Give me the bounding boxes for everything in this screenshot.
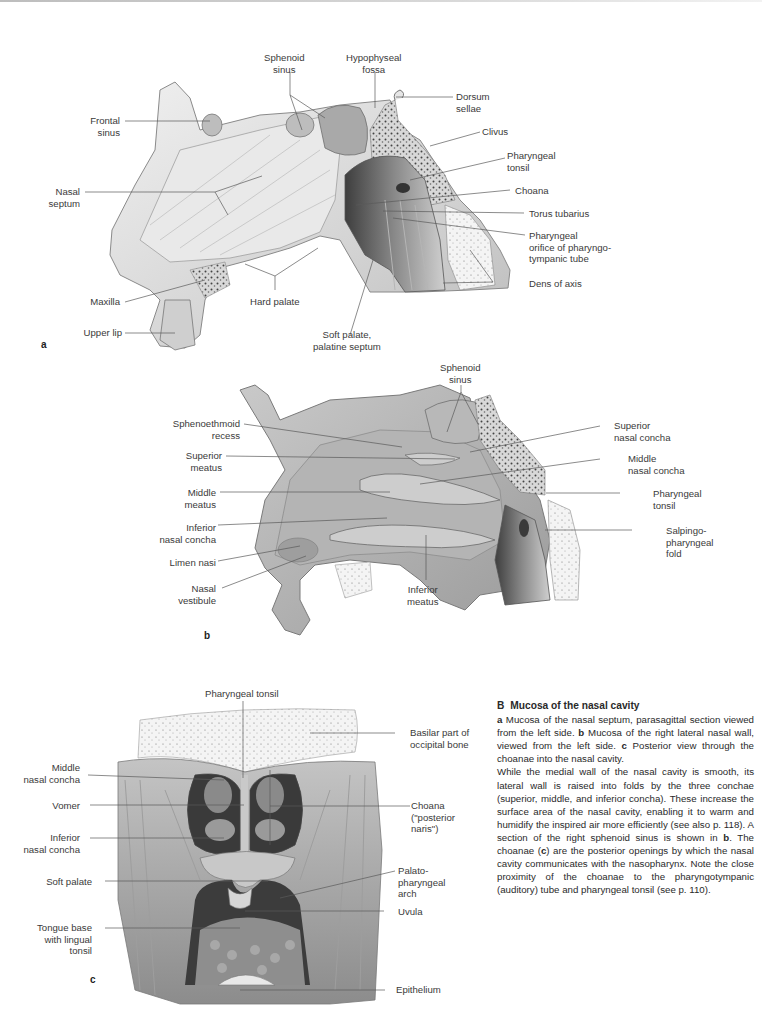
panel-c-illustration [118, 709, 382, 1004]
caption-title-text: Mucosa of the nasal cavity [510, 700, 639, 711]
label-salpingopharyngeal-fold: Salpingo- pharyngeal fold [666, 525, 713, 560]
label-choana-a: Choana [515, 185, 549, 197]
label-epithelium: Epithelium [396, 984, 441, 996]
label-uvula: Uvula [398, 906, 423, 918]
label-pharyngeal-orifice: Pharyngeal orifice of pharyngo- tympanic… [529, 230, 611, 265]
label-inferior-nasal-concha-b: Inferior nasal concha [150, 522, 216, 545]
caption-title: BMucosa of the nasal cavity [497, 699, 754, 712]
label-torus-tubarius: Torus tubarius [529, 208, 589, 220]
label-clivus: Clivus [482, 126, 508, 138]
caption-panel-descriptions: a Mucosa of the nasal septum, parasagitt… [497, 713, 754, 765]
caption-body-part-1: While the medial wall of the nasal cavit… [497, 766, 754, 842]
label-dorsum-sellae: Dorsum sellae [456, 91, 490, 114]
label-pharyngeal-tonsil-c: Pharyngeal tonsil [205, 688, 279, 700]
label-pharyngeal-tonsil-b: Pharyngeal tonsil [653, 488, 702, 511]
label-choana-c: Choana ("posterior naris") [411, 800, 455, 835]
label-frontal-sinus: Frontal sinus [86, 115, 120, 138]
label-maxilla: Maxilla [70, 296, 120, 308]
caption-figure-id: B [497, 700, 504, 711]
panel-letter-b: b [204, 630, 210, 641]
caption-body: While the medial wall of the nasal cavit… [497, 765, 754, 896]
label-basilar-part-occipital: Basilar part of occipital bone [410, 727, 469, 750]
label-sphenoid-sinus-b: Sphenoid sinus [440, 362, 481, 385]
label-upper-lip: Upper lip [70, 327, 122, 339]
label-palatopharyngeal-arch: Palato- pharyngeal arch [398, 865, 445, 900]
label-hard-palate: Hard palate [250, 296, 300, 308]
label-middle-nasal-concha: Middle nasal concha [628, 453, 685, 476]
label-sphenoid-sinus-a: Sphenoid sinus [264, 52, 305, 75]
label-soft-palate-c: Soft palate [30, 876, 92, 888]
label-middle-nasal-concha-c: Middle nasal concha [20, 762, 80, 785]
label-nasal-septum: Nasal septum [40, 186, 80, 209]
label-tongue-base: Tongue base with lingual tonsil [30, 922, 92, 957]
label-inferior-meatus: Inferior meatus [407, 584, 438, 607]
label-pharyngeal-tonsil-a: Pharyngeal tonsil [507, 150, 556, 173]
label-hypophyseal-fossa: Hypophyseal fossa [346, 52, 401, 75]
label-soft-palate-a: Soft palate, palatine septum [313, 329, 381, 352]
label-superior-meatus: Superior meatus [170, 450, 222, 473]
label-vomer: Vomer [30, 800, 80, 812]
label-middle-meatus: Middle meatus [170, 487, 216, 510]
label-superior-nasal-concha: Superior nasal concha [614, 420, 671, 443]
panel-a-illustration [110, 82, 510, 350]
label-dens-of-axis: Dens of axis [529, 278, 582, 290]
label-inferior-nasal-concha-c: Inferior nasal concha [20, 832, 80, 855]
label-nasal-vestibule: Nasal vestibule [160, 583, 216, 606]
panel-letter-c: c [90, 974, 96, 985]
figure-caption: BMucosa of the nasal cavity a Mucosa of … [497, 699, 754, 896]
panel-letter-a: a [41, 339, 47, 350]
label-limen-nasi: Limen nasi [160, 557, 216, 569]
label-sphenoethmoid-recess: Sphenoethmoid recess [150, 418, 240, 441]
